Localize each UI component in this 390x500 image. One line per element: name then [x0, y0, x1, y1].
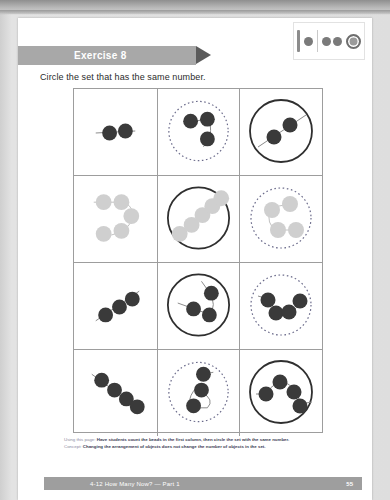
scan-top-shadow	[0, 0, 390, 14]
row-4-option-b[interactable]	[240, 350, 322, 436]
bead-set-graphic	[158, 89, 239, 175]
exercise-banner: Exercise 8	[18, 46, 216, 65]
table-row	[74, 350, 322, 436]
table-row	[74, 176, 322, 263]
bead-set-graphic	[158, 350, 239, 436]
footer-title: 4-12 How Many Now? — Part 1	[90, 481, 180, 487]
row-4-reference	[74, 350, 158, 436]
row-2-option-a[interactable]	[158, 176, 240, 262]
key-divider	[317, 30, 318, 52]
bead-key-legend	[293, 22, 365, 60]
footer-concept-lead: Concept:	[64, 444, 82, 449]
single-bead-icon	[304, 37, 313, 46]
bead-set-graphic	[74, 263, 157, 349]
row-2-option-b[interactable]	[240, 176, 322, 262]
bead-set-graphic	[74, 350, 157, 436]
bead-set-graphic	[240, 89, 322, 175]
page-footer-bar: 4-12 How Many Now? — Part 1 55	[44, 477, 362, 490]
table-row	[74, 89, 322, 176]
footer-using-lead: Using this page:	[64, 437, 96, 442]
row-1-option-b[interactable]	[240, 89, 322, 175]
bead-set-graphic	[240, 176, 322, 262]
table-row	[74, 263, 322, 350]
bead-set-graphic	[158, 176, 239, 262]
banner-arrow-icon	[196, 46, 211, 64]
row-3-option-a[interactable]	[158, 263, 240, 349]
footer-notes: Using this page: Have students count the…	[64, 436, 354, 450]
bead-set-graphic	[74, 89, 157, 175]
bead-set-graphic	[240, 350, 322, 436]
row-1-reference	[74, 89, 158, 175]
footer-line-concept: Concept: Changing the arrangement of obj…	[64, 443, 354, 450]
exercise-label: Exercise 8	[74, 50, 127, 61]
bead-set-graphic	[240, 263, 322, 349]
bead-bar-icon	[297, 30, 300, 52]
footer-line-using: Using this page: Have students count the…	[64, 436, 354, 443]
bead-set-graphic	[158, 263, 239, 349]
activity-grid	[73, 88, 323, 433]
triple-bead-icon	[322, 37, 342, 46]
worksheet-page: Exercise 8 Circle the set that has the s…	[18, 18, 372, 500]
bead-set-graphic	[74, 176, 157, 262]
page-number: 55	[346, 481, 353, 487]
footer-concept-body: Changing the arrangement of objects does…	[83, 444, 266, 449]
row-4-option-a[interactable]	[158, 350, 240, 436]
row-2-reference	[74, 176, 158, 262]
instruction-text: Circle the set that has the same number.	[40, 72, 206, 82]
circled-bead-icon	[346, 34, 361, 49]
footer-using-body: Have students count the beads in the fir…	[97, 437, 290, 442]
row-1-option-a[interactable]	[158, 89, 240, 175]
row-3-option-b[interactable]	[240, 263, 322, 349]
row-3-reference	[74, 263, 158, 349]
